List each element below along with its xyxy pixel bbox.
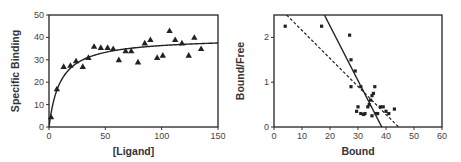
data-point-square <box>320 25 323 28</box>
x-tick-label: 40 <box>381 131 391 141</box>
data-point-square <box>387 112 390 115</box>
x-tick-label: 0 <box>46 131 51 141</box>
x-tick-label: 150 <box>210 131 225 141</box>
scatchard-plot-svg: 0102030405060012BoundBound/Free <box>230 0 461 162</box>
y-tick-label: 50 <box>34 10 44 20</box>
data-point-triangle <box>110 45 116 51</box>
plot-frame <box>49 15 218 127</box>
data-point-triangle <box>67 62 73 68</box>
data-point-square <box>349 85 352 88</box>
data-point-triangle <box>116 57 122 63</box>
data-point-square <box>370 114 373 117</box>
data-point-triangle <box>198 45 204 51</box>
plot-area <box>287 15 399 127</box>
data-point-square <box>363 112 366 115</box>
y-axis-title: Specific Binding <box>9 30 21 112</box>
x-axis-title: Bound <box>341 145 374 157</box>
data-point-triangle <box>147 36 153 42</box>
x-axis-title: [Ligand] <box>113 145 154 157</box>
y-tick-label: 0 <box>39 122 44 132</box>
data-point-triangle <box>179 40 185 46</box>
data-point-square <box>284 25 287 28</box>
data-point-triangle <box>166 27 172 33</box>
y-tick-label: 40 <box>34 32 44 42</box>
x-tick-label: 30 <box>353 131 363 141</box>
data-point-square <box>359 85 362 88</box>
y-axis-title: Bound/Free <box>234 42 246 100</box>
data-point-triangle <box>191 34 197 40</box>
data-point-square <box>379 105 382 108</box>
y-tick-label: 2 <box>264 32 269 42</box>
plot-area <box>49 43 218 127</box>
data-point-square <box>359 112 362 115</box>
data-point-square <box>372 92 375 95</box>
data-point-triangle <box>104 44 110 50</box>
data-point-square <box>348 34 351 37</box>
saturation-plot-svg: 05010015001020304050[Ligand]Specific Bin… <box>0 0 230 162</box>
y-tick-label: 1 <box>264 77 269 87</box>
data-point-triangle <box>54 86 60 92</box>
data-point-triangle <box>98 44 104 50</box>
y-tick-label: 10 <box>34 100 44 110</box>
y-tick-label: 0 <box>264 122 269 132</box>
data-point-square <box>349 58 352 61</box>
data-point-square <box>384 110 387 113</box>
y-tick-label: 30 <box>34 55 44 65</box>
fit-curve <box>49 43 218 127</box>
saturation-binding-chart: 05010015001020304050[Ligand]Specific Bin… <box>0 0 230 162</box>
x-tick-label: 0 <box>271 131 276 141</box>
data-point-square <box>355 110 358 113</box>
data-point-triangle <box>91 43 97 49</box>
data-point-triangle <box>172 36 178 42</box>
data-point-square <box>393 107 396 110</box>
data-point-square <box>376 112 379 115</box>
data-point-square <box>382 105 385 108</box>
x-tick-label: 20 <box>325 131 335 141</box>
x-tick-label: 10 <box>297 131 307 141</box>
x-tick-label: 60 <box>437 131 447 141</box>
x-tick-label: 100 <box>154 131 169 141</box>
data-point-triangle <box>154 54 160 60</box>
data-point-square <box>369 99 372 102</box>
data-point-triangle <box>160 52 166 58</box>
data-point-triangle <box>73 58 79 64</box>
data-point-square <box>354 69 357 72</box>
data-point-triangle <box>135 59 141 65</box>
data-point-square <box>366 105 369 108</box>
x-tick-label: 50 <box>100 131 110 141</box>
data-point-triangle <box>60 63 66 69</box>
x-tick-label: 50 <box>409 131 419 141</box>
regression-line-solid <box>324 15 381 127</box>
scatchard-chart: 0102030405060012BoundBound/Free <box>230 0 461 162</box>
y-tick-label: 20 <box>34 77 44 87</box>
data-point-square <box>356 105 359 108</box>
data-point-triangle <box>80 63 86 69</box>
data-point-triangle <box>186 52 192 58</box>
data-point-triangle <box>142 40 148 46</box>
data-point-square <box>373 85 376 88</box>
regression-line-dashed <box>287 15 399 127</box>
